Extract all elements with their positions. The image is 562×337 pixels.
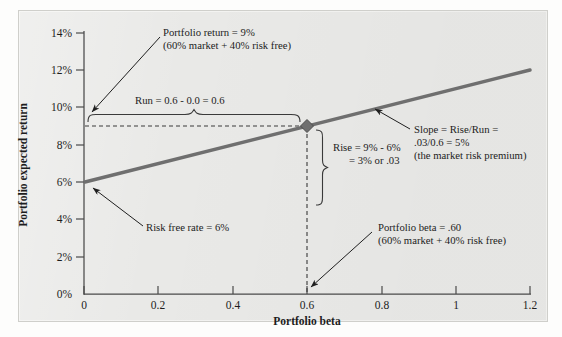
- portfolio-point-marker: [301, 120, 314, 133]
- annotation-run: Run = 0.6 - 0.0 = 0.6: [135, 94, 225, 106]
- x-axis-title: Portfolio beta: [273, 315, 341, 327]
- y-tick-label-0: 0%: [57, 288, 73, 300]
- annotation-rise-line1: Rise = 9% - 6%: [333, 141, 401, 153]
- y-tick-label-4: 4%: [57, 213, 73, 225]
- annotation-risk-free-rate: Risk free rate = 6%: [146, 221, 229, 233]
- y-tick-label-12: 12%: [51, 64, 73, 76]
- x-tick-label-0p2: 0.2: [151, 299, 166, 311]
- y-axis-title: Portfolio expected return: [17, 103, 30, 227]
- x-tick-label-0p8: 0.8: [375, 299, 390, 311]
- annotation-portfolio-return-line2: (60% market + 40% risk free): [163, 39, 291, 52]
- portfolio-beta-arrow: [311, 232, 372, 287]
- y-axis-ticks: [76, 33, 84, 257]
- x-tick-label-0p6: 0.6: [300, 299, 315, 311]
- run-brace: [88, 110, 300, 123]
- annotation-portfolio-beta-line2: (60% market + 40% risk free): [378, 234, 506, 247]
- x-tick-label-0: 0: [81, 299, 87, 311]
- x-tick-label-1p2: 1.2: [523, 299, 538, 311]
- annotation-slope-line2: .03/0.6 = 5%: [414, 136, 469, 148]
- chart-canvas: 14% 12% 10% 8% 6% 4% 2% 0% 0 0.2 0.4 0.6…: [0, 0, 562, 337]
- y-tick-label-10: 10%: [51, 101, 73, 113]
- annotation-portfolio-return-line1: Portfolio return = 9%: [163, 26, 255, 38]
- annotation-rise-line2: = 3% or .03: [349, 154, 400, 166]
- y-tick-label-2: 2%: [57, 251, 73, 263]
- y-tick-label-6: 6%: [57, 176, 73, 188]
- annotation-portfolio-beta-line1: Portfolio beta = .60: [378, 221, 461, 233]
- rise-brace: [316, 130, 328, 205]
- slope-arrow: [375, 109, 410, 129]
- annotation-slope-line1: Slope = Rise/Run =: [414, 123, 498, 135]
- annotation-slope-line3: (the market risk premium): [414, 149, 527, 162]
- risk-free-arrow: [93, 188, 143, 226]
- figure-container: 14% 12% 10% 8% 6% 4% 2% 0% 0 0.2 0.4 0.6…: [0, 0, 562, 337]
- x-tick-label-1: 1: [453, 299, 459, 311]
- y-tick-label-14: 14%: [51, 27, 73, 39]
- x-tick-label-0p4: 0.4: [226, 299, 241, 311]
- y-tick-label-8: 8%: [57, 139, 73, 151]
